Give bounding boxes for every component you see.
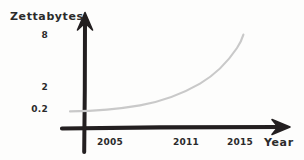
y-axis-title: Zettabytes xyxy=(10,11,84,22)
chart-container: Zettabytes 8 2 0.2 2005 2011 2015 Year xyxy=(0,0,304,160)
x-axis-title: Year xyxy=(264,137,294,148)
x-axis-tick-label: 2005 xyxy=(94,138,126,147)
x-axis-line xyxy=(62,127,282,129)
x-axis-tick-label: 2015 xyxy=(224,138,256,147)
chart-drawing xyxy=(0,0,304,160)
y-axis-tick-label: 8 xyxy=(30,31,48,40)
x-axis-tick-label: 2011 xyxy=(170,138,202,147)
y-axis-tick-label: 0.2 xyxy=(26,105,48,114)
y-axis-line xyxy=(84,22,85,152)
data-series-line xyxy=(70,35,243,112)
y-axis-tick-label: 2 xyxy=(30,83,48,92)
